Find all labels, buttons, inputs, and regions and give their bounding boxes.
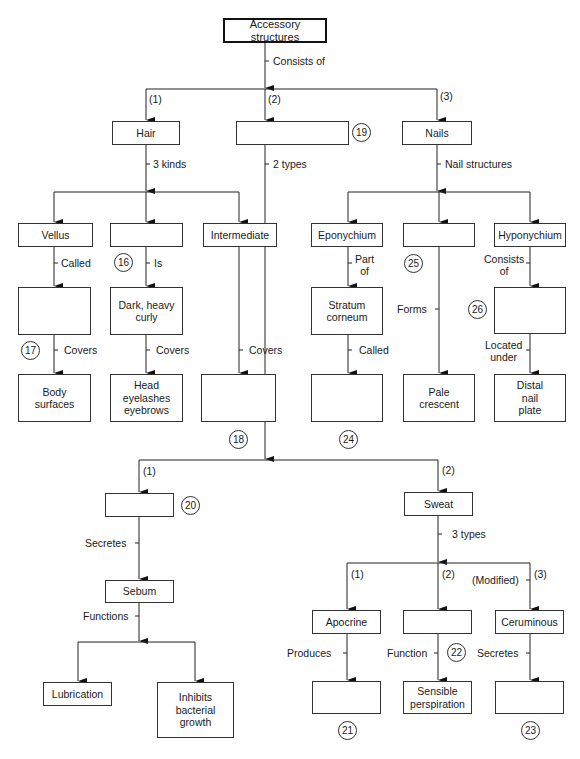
link-produces: Produces [287, 647, 331, 659]
body-surfaces-box: Body surfaces [18, 374, 91, 422]
link-functions: Functions [83, 610, 129, 622]
number-20: 20 [181, 496, 200, 515]
link-nail-structures: Nail structures [445, 158, 512, 170]
distal-nail-plate-box: Distal nail plate [494, 374, 566, 422]
intermediate-box: Intermediate [203, 223, 277, 247]
gland-type-blank-box[interactable] [105, 493, 174, 517]
link-called: Called [61, 257, 91, 269]
order-hair: (1) [149, 93, 162, 105]
link-forms: Forms [397, 303, 427, 315]
number-18: 18 [229, 430, 248, 449]
order-sweat-3: (3) [534, 568, 547, 580]
order-gland-1: (1) [143, 465, 156, 477]
hyponychium-box: Hyponychium [494, 223, 566, 247]
number-21: 21 [338, 721, 357, 740]
head-eyelashes-eyebrows-box: Head eyelashes eyebrows [110, 374, 183, 422]
sensible-perspiration-box: Sensible perspiration [403, 681, 472, 714]
order-gland-2: (2) [442, 464, 455, 476]
nail-structure-blank-box[interactable] [403, 223, 475, 247]
stratum-corneum-box: Stratum corneum [311, 287, 383, 335]
dark-heavy-curly-box: Dark, heavy curly [110, 287, 183, 335]
number-22: 22 [447, 643, 466, 662]
sebum-box: Sebum [105, 580, 174, 603]
vellus-box: Vellus [18, 223, 93, 247]
number-24: 24 [339, 430, 358, 449]
hyponychium-child-blank-box[interactable] [494, 287, 566, 334]
link-function: Function [387, 647, 427, 659]
apocrine-leaf-blank-box[interactable] [312, 681, 381, 714]
inhibits-bacterial-growth-box: Inhibits bacterial growth [157, 682, 234, 738]
number-19: 19 [352, 123, 371, 142]
eponychium-box: Eponychium [311, 223, 383, 247]
link-consists-of: Consists of [273, 55, 325, 67]
link-covers-1: Covers [64, 344, 97, 356]
link-2-types: 2 types [273, 158, 307, 170]
link-secretes: Secretes [85, 537, 126, 549]
vellus-child-blank-box[interactable] [18, 287, 91, 335]
eponychium-leaf-blank-box[interactable] [311, 374, 383, 422]
order-sweat-1: (1) [351, 568, 364, 580]
link-consists-of-2: Consists of [484, 253, 524, 277]
lubrication-box: Lubrication [43, 682, 112, 706]
glands-blank-box[interactable] [236, 121, 349, 145]
ceruminous-leaf-blank-box[interactable] [495, 681, 564, 714]
pale-crescent-box: Pale crescent [403, 374, 475, 422]
root-box: Accessory structures [223, 18, 327, 43]
link-covers-3: Covers [249, 344, 282, 356]
link-covers-2: Covers [156, 344, 189, 356]
nails-box: Nails [402, 121, 472, 145]
link-part-of: Part of [355, 253, 374, 277]
link-located-under: Located under [485, 339, 522, 363]
number-25: 25 [404, 254, 423, 273]
order-glands: (2) [268, 93, 281, 105]
link-called-2: Called [359, 344, 389, 356]
hair-box: Hair [112, 121, 180, 145]
link-3-kinds: 3 kinds [153, 158, 186, 170]
number-23: 23 [521, 721, 540, 740]
order-sweat-2: (2) [442, 568, 455, 580]
sweat-box: Sweat [404, 492, 473, 516]
link-secretes-2: Secretes [477, 647, 518, 659]
number-16: 16 [114, 253, 133, 272]
link-3-types: 3 types [452, 528, 486, 540]
number-26: 26 [468, 300, 487, 319]
ceruminous-box: Ceruminous [495, 610, 564, 634]
apocrine-box: Apocrine [312, 610, 381, 634]
modified-label: (Modified) [472, 574, 519, 586]
number-17: 17 [21, 341, 40, 360]
hair-kind-blank-box[interactable] [110, 223, 183, 247]
order-nails: (3) [440, 90, 453, 102]
sweat-type-blank-box[interactable] [403, 610, 472, 634]
link-is: Is [154, 257, 162, 269]
intermediate-leaf-blank-box[interactable] [201, 374, 276, 422]
